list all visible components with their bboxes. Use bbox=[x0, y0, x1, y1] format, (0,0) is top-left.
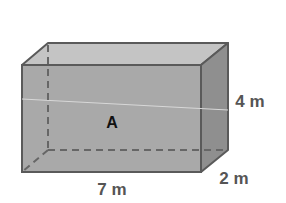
depth-label: 2 m bbox=[219, 169, 248, 188]
right-face bbox=[201, 43, 228, 172]
height-label: 4 m bbox=[235, 92, 264, 111]
top-face bbox=[22, 43, 228, 65]
prism-diagram: A 4 m 2 m 7 m bbox=[0, 0, 286, 203]
face-label: A bbox=[106, 114, 118, 131]
length-label: 7 m bbox=[97, 180, 126, 199]
